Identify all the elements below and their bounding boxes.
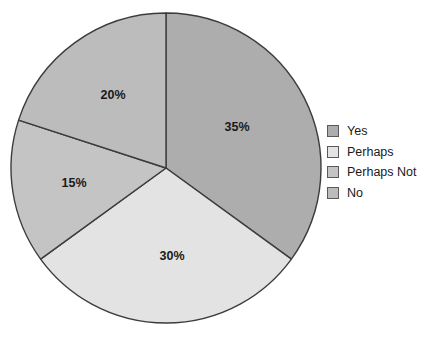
pie-chart-page: 35%30%15%20% YesPerhapsPerhaps NotNo (0, 0, 437, 338)
pie-slice-label: 35% (224, 120, 249, 134)
pie-slice-label: 20% (100, 88, 125, 102)
legend-item-label: Perhaps (347, 146, 394, 159)
legend-item[interactable]: Perhaps Not (327, 162, 437, 183)
legend-swatch-icon (327, 146, 339, 158)
pie-chart-area: 35%30%15%20% (0, 0, 330, 338)
legend-item[interactable]: No (327, 183, 437, 204)
legend-item-label: Perhaps Not (347, 166, 416, 179)
pie-chart-svg: 35%30%15%20% (0, 0, 330, 338)
pie-slice-label: 15% (61, 176, 86, 190)
legend-swatch-icon (327, 166, 339, 178)
legend-item-label: Yes (347, 125, 367, 138)
legend-item-label: No (347, 187, 363, 200)
pie-slice-label: 30% (159, 249, 184, 263)
legend-item[interactable]: Perhaps (327, 142, 437, 163)
legend-swatch-icon (327, 125, 339, 137)
chart-legend: YesPerhapsPerhaps NotNo (327, 121, 437, 203)
legend-item[interactable]: Yes (327, 121, 437, 142)
pie-slices-group (11, 13, 321, 323)
legend-swatch-icon (327, 187, 339, 199)
